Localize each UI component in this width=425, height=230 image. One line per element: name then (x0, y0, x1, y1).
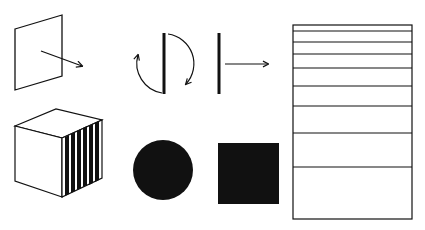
bar-translation-figure (219, 33, 268, 94)
rotate-counterclockwise-arrow-icon (137, 55, 162, 93)
rotating-bar-figure (137, 33, 194, 94)
rotate-clockwise-arrow-icon (168, 34, 194, 84)
diagram-canvas (0, 0, 425, 230)
striped-cube-figure (15, 109, 102, 197)
filled-square (218, 143, 279, 204)
diagram-svg (0, 0, 425, 230)
filled-circle (133, 140, 193, 200)
graded-rectangle-figure (293, 25, 412, 219)
tilted-plane-figure (15, 15, 82, 90)
